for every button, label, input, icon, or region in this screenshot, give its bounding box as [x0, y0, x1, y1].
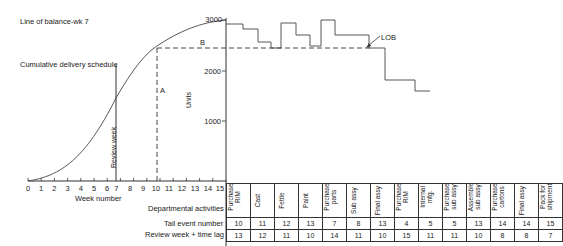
- tail-event-row: 1011 1213 78 134 55 1314 1415: [227, 218, 563, 230]
- label-b: B: [200, 38, 205, 47]
- tail-event-label: Tail event number: [164, 219, 223, 228]
- activity-header-row: Purchase R/M Cast Fettle Paint Purchase …: [227, 184, 563, 218]
- review-week-label: Review week: [110, 127, 117, 168]
- lob-label: LOB: [381, 33, 396, 42]
- label-a: A: [160, 86, 165, 95]
- ytick-3000: 3000: [205, 15, 222, 24]
- review-lag-row: 1312 1110 1411 1015 1111 108 87: [227, 230, 563, 242]
- ytick-2000: 2000: [204, 67, 221, 76]
- chart-title: Line of balance-wk 7: [20, 17, 89, 26]
- cumulative-label: Cumulative delivery schedule: [20, 60, 118, 69]
- units-label: Units: [185, 92, 192, 108]
- departmental-activities-label: Departmental activities: [148, 204, 224, 213]
- activities-table: Purchase R/M Cast Fettle Paint Purchase …: [226, 183, 563, 242]
- ytick-1000: 1000: [204, 117, 221, 126]
- lob-step-line: [226, 20, 430, 91]
- week-number-label: Week number: [75, 194, 122, 203]
- review-lag-label: Review week + time lag: [145, 230, 224, 239]
- cumulative-curve: [28, 20, 226, 181]
